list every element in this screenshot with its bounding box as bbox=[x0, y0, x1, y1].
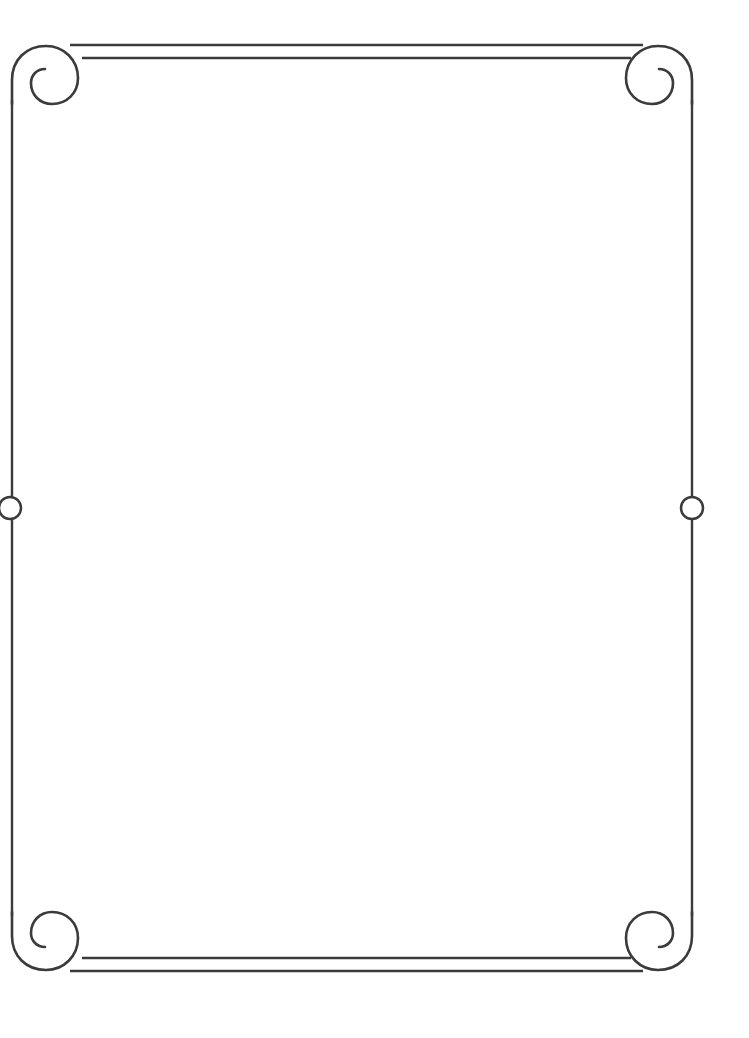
top-rule-pair bbox=[70, 45, 643, 58]
left-circle-accent bbox=[0, 497, 21, 519]
document-page bbox=[0, 0, 749, 1038]
bottom-rule-pair bbox=[70, 958, 643, 971]
document-content-area bbox=[30, 80, 690, 940]
document-body-text bbox=[30, 80, 690, 940]
